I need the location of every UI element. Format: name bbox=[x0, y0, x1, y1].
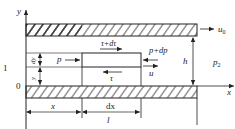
bottom-shear-label: τ bbox=[110, 74, 114, 83]
dx-dimension-label: dx bbox=[106, 101, 116, 111]
right-pressure-label: p+dp bbox=[148, 45, 168, 55]
left-pressure-label: p bbox=[56, 54, 62, 64]
label-one: 1 bbox=[3, 63, 8, 73]
velocity-label: u bbox=[149, 68, 154, 78]
gap-label: h bbox=[183, 56, 188, 66]
label-zero: 0 bbox=[16, 81, 21, 91]
fluid-element bbox=[82, 53, 141, 67]
bottom-plate bbox=[26, 86, 197, 98]
plate-velocity-label: u0 bbox=[218, 24, 226, 35]
x-axis-label: x bbox=[226, 87, 231, 97]
y-axis-label: y bbox=[16, 6, 21, 16]
x-dimension-label: x bbox=[50, 101, 55, 111]
y-label: y bbox=[29, 76, 37, 81]
flow-diagram: y x u0 h p2 1 0 τ+dτ p p+dp u τ dy y x bbox=[0, 0, 235, 129]
top-shear-label: τ+dτ bbox=[101, 39, 117, 48]
dy-label: dy bbox=[29, 57, 37, 65]
outlet-pressure-label: p2 bbox=[212, 57, 221, 68]
l-dimension-label: l bbox=[107, 115, 110, 125]
